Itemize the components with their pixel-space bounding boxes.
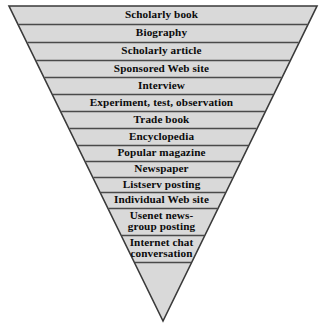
tier-label: Listserv posting <box>0 179 323 191</box>
tier-label: Internet chat conversation <box>0 237 323 260</box>
tier-label: Sponsored Web site <box>0 63 323 75</box>
tier-label: Interview <box>0 80 323 92</box>
tier-label: Trade book <box>0 114 323 126</box>
tier-label: Scholarly book <box>0 9 323 21</box>
tier-label: Encyclopedia <box>0 131 323 143</box>
tier-label: Scholarly article <box>0 45 323 57</box>
inverted-pyramid-diagram: Scholarly bookBiographyScholarly article… <box>0 0 323 332</box>
tier-label: Experiment, test, observation <box>0 97 323 109</box>
tier-label: Popular magazine <box>0 147 323 159</box>
tier-label: Usenet news- group posting <box>0 210 323 233</box>
tier-label-layer: Scholarly bookBiographyScholarly article… <box>0 0 323 332</box>
tier-label: Newspaper <box>0 163 323 175</box>
tier-label: Individual Web site <box>0 194 323 206</box>
tier-label: Biography <box>0 27 323 39</box>
